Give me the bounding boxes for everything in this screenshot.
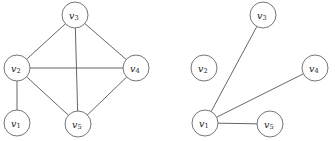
graph-edge <box>211 26 257 111</box>
graph-node-v5: v5 <box>65 111 91 137</box>
graph-edge <box>27 24 66 59</box>
graph-node-v4: v4 <box>123 55 149 81</box>
edge-group <box>211 26 303 123</box>
graph-node-v2: v2 <box>4 55 30 81</box>
graph-edge <box>218 123 257 124</box>
graph-edge <box>27 77 69 115</box>
left-graph: v1v2v3v4v5 <box>4 2 149 137</box>
graph-node-v1: v1 <box>192 110 218 136</box>
graph-node-v3: v3 <box>62 2 88 28</box>
graph-edge <box>87 77 126 115</box>
graph-node-v1: v1 <box>4 110 30 136</box>
graph-edge <box>75 28 77 111</box>
graph-node-v3: v3 <box>250 2 276 28</box>
graph-drawing-canvas: v1v2v3v4v5v1v2v3v4v5 <box>0 0 335 141</box>
graph-figure: v1v2v3v4v5v1v2v3v4v5 <box>0 0 335 141</box>
graph-edge <box>85 24 126 60</box>
edge-group <box>17 24 127 116</box>
graph-node-v2: v2 <box>191 55 217 81</box>
graph-node-v4: v4 <box>302 55 328 81</box>
right-graph: v1v2v3v4v5 <box>191 2 328 137</box>
graph-edge <box>217 74 304 117</box>
graph-node-v5: v5 <box>257 111 283 137</box>
